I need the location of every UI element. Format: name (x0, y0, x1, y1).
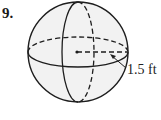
radius-label: 1.5 ft (127, 63, 157, 77)
sphere-figure (0, 0, 161, 120)
